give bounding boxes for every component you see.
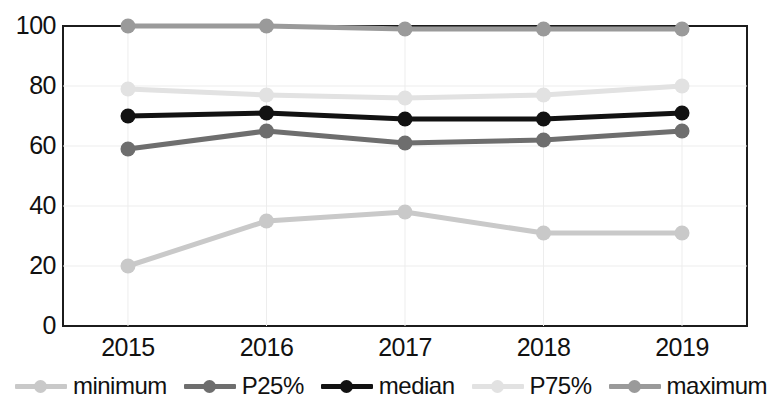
legend-swatch-p25 [184, 377, 236, 395]
legend: minimumP25%medianP75%maximum [0, 368, 782, 404]
y-axis-tick-label: 100 [4, 13, 56, 38]
plot-area [62, 25, 748, 327]
line-chart: 020406080100 20152016201720182019 minimu… [0, 0, 782, 414]
legend-label: median [379, 373, 455, 399]
legend-swatch-minimum [15, 377, 67, 395]
y-axis-tick-label: 60 [4, 133, 56, 158]
legend-marker-icon [491, 380, 504, 393]
legend-item-minimum[interactable]: minimum [15, 373, 167, 399]
legend-item-p25[interactable]: P25% [184, 373, 304, 399]
legend-swatch-p75 [472, 377, 524, 395]
x-axis-tick-label: 2015 [68, 332, 188, 362]
y-axis-tick-label: 80 [4, 73, 56, 98]
x-axis-tick-labels: 20152016201720182019 [0, 332, 782, 366]
y-axis-tick-label: 40 [4, 193, 56, 218]
legend-label: minimum [73, 373, 167, 399]
x-axis-tick-label: 2017 [345, 332, 465, 362]
legend-item-p75[interactable]: P75% [472, 373, 592, 399]
legend-marker-icon [34, 380, 47, 393]
legend-label: P25% [242, 373, 304, 399]
legend-item-maximum[interactable]: maximum [609, 373, 768, 399]
x-axis-tick-label: 2019 [622, 332, 742, 362]
x-axis-tick-label: 2018 [484, 332, 604, 362]
legend-label: P75% [530, 373, 592, 399]
legend-swatch-maximum [609, 377, 661, 395]
legend-label: maximum [667, 373, 768, 399]
x-axis-tick-label: 2016 [206, 332, 326, 362]
legend-marker-icon [628, 380, 641, 393]
y-axis-tick-label: 20 [4, 253, 56, 278]
legend-marker-icon [340, 380, 353, 393]
legend-item-median[interactable]: median [321, 373, 455, 399]
legend-swatch-median [321, 377, 373, 395]
legend-marker-icon [203, 380, 216, 393]
